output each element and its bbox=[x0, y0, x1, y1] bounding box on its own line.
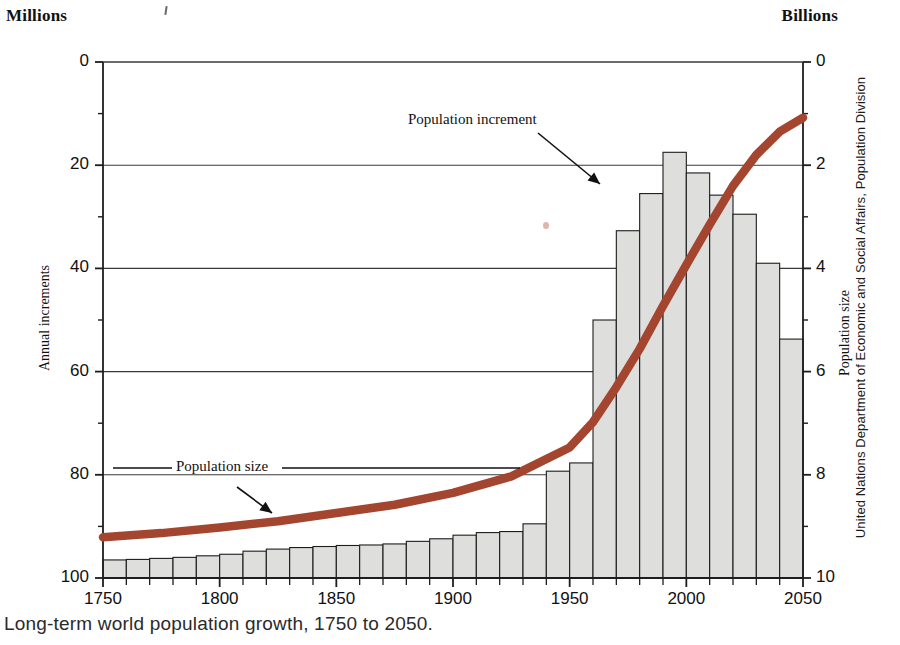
bar-1800 bbox=[220, 554, 243, 578]
right-axis-unit-label: Billions bbox=[782, 6, 838, 26]
y2-tick-label-0: 10 bbox=[816, 567, 862, 587]
population-growth-figure: Millions Billions Annual increments Popu… bbox=[0, 0, 900, 645]
bar-1910 bbox=[476, 533, 499, 578]
bar-1840 bbox=[313, 547, 336, 578]
annotation-leaders bbox=[113, 133, 600, 513]
x-tick-label-1750: 1750 bbox=[68, 589, 138, 609]
annotation-increment-leader bbox=[538, 133, 600, 184]
annotation-increment-arrowhead bbox=[588, 172, 601, 184]
x-tick-label-1900: 1900 bbox=[418, 589, 488, 609]
bar-1760 bbox=[126, 559, 149, 578]
bar-1830 bbox=[290, 548, 313, 578]
bar-1940 bbox=[546, 471, 569, 578]
annotation-popsize-arrowhead bbox=[259, 502, 272, 513]
y2-tick-label-10: 0 bbox=[816, 51, 862, 71]
bar-1870 bbox=[383, 544, 406, 578]
bar-1980 bbox=[640, 194, 663, 578]
x-tick-label-1800: 1800 bbox=[185, 589, 255, 609]
y-tick-label-60: 40 bbox=[43, 257, 89, 277]
bar-1780 bbox=[173, 557, 196, 578]
chart-plot-area bbox=[0, 0, 900, 645]
y-tick-label-40: 60 bbox=[43, 361, 89, 381]
y2-tick-label-8: 2 bbox=[816, 154, 862, 174]
bar-1820 bbox=[266, 549, 289, 578]
x-tick-label-2050: 2050 bbox=[768, 589, 838, 609]
bar-1950 bbox=[570, 463, 593, 578]
bar-1930 bbox=[523, 524, 546, 578]
bar-2030 bbox=[756, 263, 779, 578]
bar-2020 bbox=[733, 214, 756, 578]
bar-2040 bbox=[780, 339, 803, 578]
bar-2010 bbox=[710, 195, 733, 578]
bar-1880 bbox=[406, 541, 429, 578]
left-axis-unit-label: Millions bbox=[6, 6, 67, 26]
annotation-population-size: Population size bbox=[176, 458, 268, 475]
annotation-population-increment: Population increment bbox=[408, 111, 537, 128]
y-tick-label-100: 0 bbox=[43, 51, 89, 71]
figure-caption: Long-term world population growth, 1750 … bbox=[4, 613, 433, 635]
x-tick-label-1850: 1850 bbox=[301, 589, 371, 609]
bar-1900 bbox=[453, 535, 476, 578]
y2-tick-label-6: 4 bbox=[816, 257, 862, 277]
bar-1860 bbox=[360, 545, 383, 578]
bar-1990 bbox=[663, 152, 686, 578]
y-tick-label-20: 80 bbox=[43, 464, 89, 484]
y2-tick-label-4: 6 bbox=[816, 361, 862, 381]
bar-1920 bbox=[500, 532, 523, 578]
bar-1960 bbox=[593, 320, 616, 578]
x-tick-label-2000: 2000 bbox=[651, 589, 721, 609]
bar-1890 bbox=[430, 539, 453, 578]
source-credit: United Nations Department of Economic an… bbox=[853, 0, 868, 645]
bar-1850 bbox=[336, 545, 359, 578]
bar-1790 bbox=[196, 556, 219, 578]
x-tick-label-1950: 1950 bbox=[535, 589, 605, 609]
scan-artifact-speck bbox=[543, 222, 549, 229]
bar-1750 bbox=[103, 560, 126, 578]
y-tick-label-0: 100 bbox=[43, 567, 89, 587]
bars-group bbox=[103, 152, 803, 578]
bar-1770 bbox=[150, 558, 173, 578]
bar-1970 bbox=[616, 231, 639, 578]
bar-1810 bbox=[243, 551, 266, 578]
y-tick-label-80: 20 bbox=[43, 154, 89, 174]
y2-tick-label-2: 8 bbox=[816, 464, 862, 484]
